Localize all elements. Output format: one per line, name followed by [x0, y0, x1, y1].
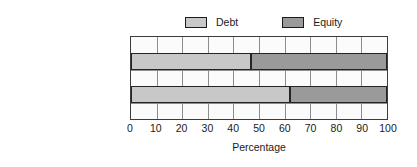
- gridline-v-30: [208, 37, 209, 119]
- vertical-gridlines: [131, 37, 387, 119]
- legend-swatch-debt: [185, 17, 207, 28]
- x-tick-label-30: 30: [202, 122, 214, 135]
- bar-segment-teams-equity: [290, 86, 387, 102]
- x-tick-label-10: 10: [150, 122, 162, 135]
- bar-row-teams: [131, 86, 387, 102]
- x-tick-label-70: 70: [305, 122, 317, 135]
- x-tick-label-90: 90: [356, 122, 368, 135]
- gridline-v-90: [361, 37, 362, 119]
- gridline-v-20: [182, 37, 183, 119]
- bar-row-solo: [131, 53, 387, 69]
- chart-legend: Debt Equity: [185, 14, 342, 30]
- x-tick-label-20: 20: [176, 122, 188, 135]
- gridline-v-80: [336, 37, 337, 119]
- plot-area: [130, 36, 388, 120]
- gridline-v-50: [259, 37, 260, 119]
- x-tick-label-0: 0: [127, 122, 133, 135]
- x-tick-label-40: 40: [227, 122, 239, 135]
- bar-segment-solo-equity: [251, 53, 387, 69]
- gridline-v-40: [233, 37, 234, 119]
- bar-segment-solo-debt: [131, 53, 251, 69]
- x-tick-label-100: 100: [379, 122, 397, 135]
- legend-item-equity: Equity: [282, 17, 342, 28]
- legend-swatch-equity: [282, 17, 304, 28]
- stacked-bar-chart: Debt Equity Percentage of Total Dollar F…: [0, 0, 417, 167]
- x-axis-title: Percentage: [130, 141, 388, 154]
- x-axis-ticks: 0102030405060708090100: [130, 122, 388, 136]
- x-tick-label-50: 50: [253, 122, 265, 135]
- gridline-v-70: [310, 37, 311, 119]
- legend-label-equity: Equity: [313, 17, 342, 28]
- x-tick-label-60: 60: [279, 122, 291, 135]
- gridline-v-60: [285, 37, 286, 119]
- gridline-v-10: [157, 37, 158, 119]
- bar-segment-teams-debt: [131, 86, 290, 102]
- legend-label-debt: Debt: [216, 17, 238, 28]
- x-tick-label-80: 80: [331, 122, 343, 135]
- legend-item-debt: Debt: [185, 17, 238, 28]
